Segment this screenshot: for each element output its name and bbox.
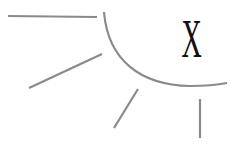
- horizontal-tick-line: [8, 16, 97, 17]
- roman-numeral-ten: X: [182, 14, 192, 64]
- clock-arc: [104, 12, 227, 86]
- diagonal-tick-lower-line: [114, 89, 138, 128]
- clock-face-fragment: X: [0, 0, 236, 147]
- diagonal-tick-upper-line: [29, 54, 102, 88]
